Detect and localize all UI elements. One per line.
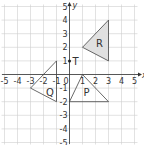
x-tick-label: 4: [119, 77, 124, 86]
y-tick-label: -5: [60, 139, 68, 146]
x-tick-label: 2: [93, 77, 98, 86]
x-tick-label: -5: [1, 77, 9, 86]
y-tick-label: 5: [62, 3, 67, 12]
triangle-r-label: R: [96, 38, 103, 49]
y-tick-label: -3: [60, 111, 68, 120]
coordinate-grid: xy -5-4-3-2-112345-5-4-3-2-1123450 RQP T: [0, 0, 144, 145]
point-t: [68, 59, 71, 62]
point-t-label: T: [72, 56, 80, 67]
x-tick-label: -3: [27, 77, 35, 86]
triangle-p-label: P: [83, 87, 89, 98]
y-tick-label: 3: [62, 30, 67, 39]
tick-labels: -5-4-3-2-112345-5-4-3-2-1123450: [1, 3, 138, 146]
x-tick-label: -4: [14, 77, 22, 86]
x-tick-label: 3: [106, 77, 111, 86]
y-tick-label: -2: [60, 98, 68, 107]
y-tick-label: -4: [60, 125, 68, 134]
x-axis-label: x: [141, 71, 144, 80]
y-axis-label: y: [72, 1, 78, 10]
y-tick-label: 1: [62, 57, 67, 66]
y-axis-arrow-icon: [68, 2, 72, 6]
triangle-q-label: Q: [46, 87, 54, 98]
y-tick-label: 4: [62, 16, 67, 25]
origin-label: 0: [63, 77, 68, 86]
y-tick-label: 2: [62, 43, 67, 52]
x-tick-label: 5: [132, 77, 137, 86]
axes: xy: [2, 1, 144, 144]
